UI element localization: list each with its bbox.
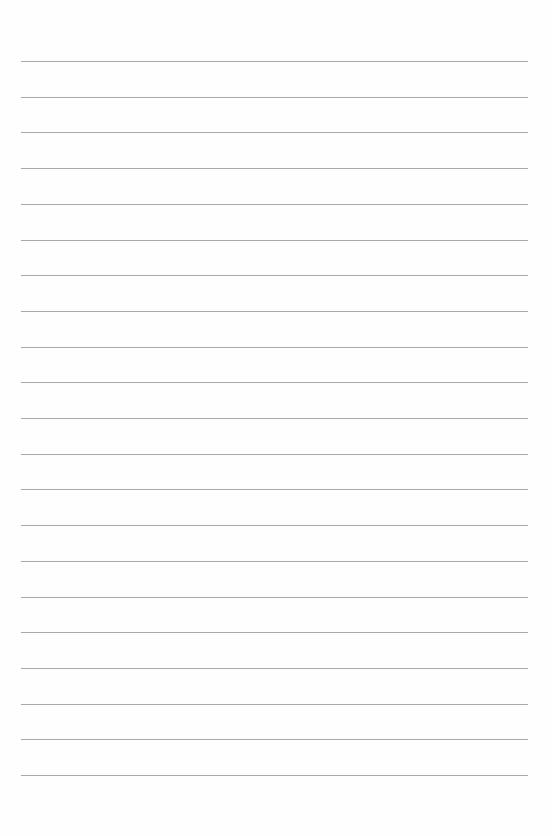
ruled-line (21, 311, 528, 312)
ruled-line (21, 240, 528, 241)
ruled-line (21, 382, 528, 383)
ruled-line (21, 489, 528, 490)
ruled-line (21, 668, 528, 669)
ruled-line (21, 597, 528, 598)
ruled-line (21, 632, 528, 633)
ruled-line (21, 61, 528, 62)
ruled-line (21, 132, 528, 133)
ruled-line (21, 204, 528, 205)
ruled-line (21, 347, 528, 348)
lined-paper-page (0, 0, 552, 836)
ruled-line (21, 775, 528, 776)
ruled-line (21, 168, 528, 169)
ruled-line (21, 275, 528, 276)
ruled-line (21, 97, 528, 98)
ruled-line (21, 561, 528, 562)
ruled-line (21, 739, 528, 740)
ruled-line (21, 454, 528, 455)
ruled-line (21, 704, 528, 705)
ruled-line (21, 418, 528, 419)
ruled-line (21, 525, 528, 526)
